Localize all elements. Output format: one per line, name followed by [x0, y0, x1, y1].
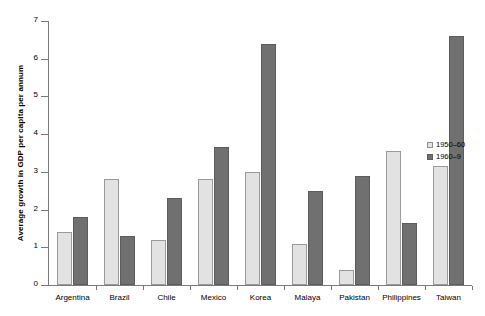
bar: [261, 44, 276, 285]
y-axis-tick: 6: [41, 59, 48, 60]
legend-label: 1950–60: [436, 141, 465, 149]
bar-group: [331, 21, 378, 285]
plot-area: [49, 21, 472, 285]
y-axis-tick-label: 2: [34, 204, 38, 213]
x-axis-line: [48, 285, 472, 286]
x-axis-tick-label: Taiwan: [425, 293, 472, 302]
bar: [402, 223, 417, 285]
x-axis-tick: [237, 286, 238, 290]
y-axis-tick: 3: [41, 172, 48, 173]
legend-item: 1960–9: [427, 152, 465, 162]
bar: [308, 191, 323, 285]
bar: [104, 179, 119, 285]
y-axis-tick: 7: [41, 21, 48, 22]
y-axis-tick-label: 6: [34, 53, 38, 62]
y-axis-tick-label: 0: [34, 279, 38, 288]
x-axis-tick: [96, 286, 97, 290]
x-axis-tick-label: Chile: [143, 293, 190, 302]
y-axis-tick: 4: [41, 134, 48, 135]
y-axis-tick: 0: [41, 285, 48, 286]
x-axis-tick: [425, 286, 426, 290]
x-axis-tick: [143, 286, 144, 290]
y-axis-tick: 1: [41, 247, 48, 248]
y-axis-tick-label: 5: [34, 90, 38, 99]
bar: [386, 151, 401, 285]
bar-group: [237, 21, 284, 285]
y-axis-tick-label: 4: [34, 128, 38, 137]
x-axis-tick-label: Korea: [237, 293, 284, 302]
y-axis-tick: 2: [41, 210, 48, 211]
bar: [214, 147, 229, 285]
x-axis-tick: [331, 286, 332, 290]
bar-group: [49, 21, 96, 285]
y-axis-label: Average growth in GDP per capita per ann…: [14, 21, 28, 285]
bar: [339, 270, 354, 285]
x-axis-tick: [190, 286, 191, 290]
x-axis-tick-label: Malaya: [284, 293, 331, 302]
x-axis-tick: [472, 286, 473, 290]
legend-swatch-light: [427, 142, 433, 148]
bar-group: [378, 21, 425, 285]
bar: [167, 198, 182, 285]
bar: [292, 244, 307, 285]
x-axis-tick-label: Mexico: [190, 293, 237, 302]
x-axis-tick-label: Argentina: [49, 293, 96, 302]
x-axis-tick: [284, 286, 285, 290]
x-axis-tick-label: Pakistan: [331, 293, 378, 302]
legend-label: 1960–9: [436, 153, 461, 161]
x-axis-tick-label: Brazil: [96, 293, 143, 302]
bar-group: [190, 21, 237, 285]
y-axis-tick-label: 7: [34, 15, 38, 24]
bar: [120, 236, 135, 285]
bar-group: [284, 21, 331, 285]
legend-item: 1950–60: [427, 140, 465, 150]
bar: [151, 240, 166, 285]
bar-group: [96, 21, 143, 285]
legend-swatch-dark: [427, 154, 433, 160]
bar: [355, 176, 370, 285]
bar-chart: Average growth in GDP per capita per ann…: [0, 0, 485, 316]
legend: 1950–601960–9: [427, 140, 465, 164]
bar: [433, 166, 448, 285]
x-axis-tick-label: Philippines: [378, 293, 425, 302]
y-axis-tick: 5: [41, 96, 48, 97]
bar: [245, 172, 260, 285]
bar: [198, 179, 213, 285]
y-axis-tick-label: 1: [34, 241, 38, 250]
bar: [57, 232, 72, 285]
x-axis-tick: [378, 286, 379, 290]
bar-group: [143, 21, 190, 285]
y-axis-tick-label: 3: [34, 166, 38, 175]
bar: [73, 217, 88, 285]
